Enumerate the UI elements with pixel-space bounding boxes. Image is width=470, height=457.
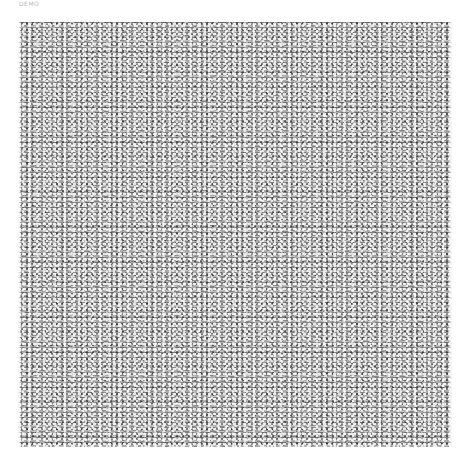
caption-label: DEMO (19, 0, 39, 7)
noise-texture-image (18, 22, 452, 447)
